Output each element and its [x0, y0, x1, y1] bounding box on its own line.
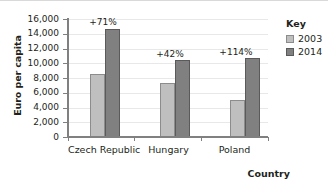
- y-tick-label: 14,000: [0, 29, 59, 38]
- y-tick-mark: [63, 49, 68, 50]
- x-tick-mark: [268, 137, 269, 141]
- bar-poland-2014: [245, 58, 260, 137]
- y-tick-label: 4,000: [0, 103, 59, 112]
- legend-item-2003: 2003: [286, 32, 322, 45]
- y-tick-label: 10,000: [0, 59, 59, 68]
- bar-hungary-2014: [175, 60, 190, 137]
- x-axis-line: [67, 136, 268, 138]
- x-category-label-poland: Poland: [201, 144, 268, 155]
- y-tick-mark: [63, 34, 68, 35]
- growth-annotation-czech-republic: +71%: [70, 17, 136, 27]
- legend-item-2014: 2014: [286, 45, 322, 58]
- x-tick-mark: [201, 137, 202, 141]
- x-axis-title: Country: [0, 168, 290, 179]
- y-tick-label: 8,000: [0, 74, 59, 83]
- x-tick-mark: [134, 137, 135, 141]
- bar-czech-republic-2003: [90, 74, 105, 137]
- legend-swatch-icon-2003: [286, 35, 294, 43]
- bar-hungary-2003: [160, 83, 175, 137]
- gridline: [68, 63, 268, 64]
- bar-poland-2003: [230, 100, 245, 137]
- growth-annotation-poland: +114%: [203, 47, 269, 57]
- bar-chart: Euro per capita 16,000 14,000 12,000 10,…: [0, 0, 328, 186]
- x-category-label-czech-republic: Czech Republic: [68, 144, 135, 155]
- y-tick-mark: [63, 122, 68, 123]
- y-tick-label: 16,000: [0, 15, 59, 24]
- y-tick-label: 12,000: [0, 44, 59, 53]
- legend-title: Key: [286, 18, 322, 30]
- y-tick-mark: [63, 19, 68, 20]
- y-tick-mark: [63, 93, 68, 94]
- bar-czech-republic-2014: [105, 29, 120, 137]
- y-tick-mark: [63, 108, 68, 109]
- growth-annotation-hungary: +42%: [137, 49, 203, 59]
- x-category-label-hungary: Hungary: [135, 144, 202, 155]
- plot-area: [68, 19, 268, 137]
- y-tick-mark: [63, 63, 68, 64]
- y-tick-label: 0: [0, 133, 59, 142]
- legend-label-2014: 2014: [298, 46, 322, 57]
- legend-label-2003: 2003: [298, 33, 322, 44]
- gridline: [68, 34, 268, 35]
- y-tick-label: 6,000: [0, 88, 59, 97]
- y-tick-label: 2,000: [0, 118, 59, 127]
- legend: Key 2003 2014: [286, 18, 322, 58]
- legend-swatch-icon-2014: [286, 48, 294, 56]
- x-tick-mark: [68, 137, 69, 141]
- y-tick-mark: [63, 78, 68, 79]
